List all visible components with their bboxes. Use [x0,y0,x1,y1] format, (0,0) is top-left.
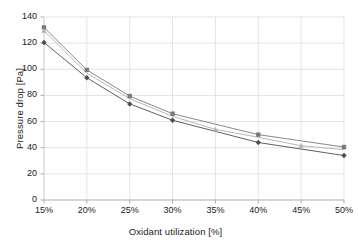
data-marker-series-1 [256,132,260,136]
data-marker-series-1 [85,68,89,72]
x-tick-label: 50% [327,205,358,215]
y-tick-label: 40 [9,142,37,152]
data-marker-series-3 [170,117,175,123]
y-tick-label: 80 [9,89,37,99]
data-marker-series-1 [170,112,174,116]
data-marker-series-3 [256,140,261,146]
y-tick-label: 140 [9,11,37,21]
data-marker-series-1 [342,145,346,149]
y-tick-label: 60 [9,116,37,126]
data-marker-series-3 [127,101,132,107]
y-tick-label: 120 [9,37,37,47]
data-line-series-3 [44,42,344,155]
x-tick-label: 25% [113,205,147,215]
x-tick-label: 15% [27,205,61,215]
data-line-series-1 [44,27,344,147]
x-tick-label: 40% [241,205,275,215]
x-axis-title: Oxidant utilization [%] [0,226,351,237]
y-tick-label: 20 [9,168,37,178]
x-tick-label: 30% [156,205,190,215]
data-marker-series-3 [341,153,346,159]
x-tick-label: 45% [284,205,318,215]
y-tick-label: 100 [9,63,37,73]
data-marker-series-1 [128,94,132,98]
x-tick-label: 35% [198,205,232,215]
data-line-series-2 [44,31,344,150]
y-tick-label: 0 [9,194,37,204]
x-tick-label: 20% [70,205,104,215]
